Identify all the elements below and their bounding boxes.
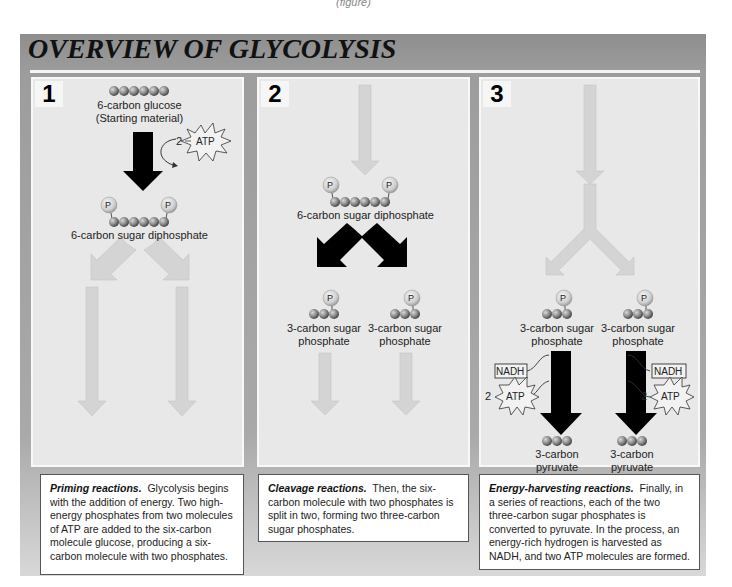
phosphate-label: P	[560, 292, 566, 305]
panel-priming: 1 6-carbon glucose (	[31, 77, 244, 467]
phosphate-label: P	[641, 292, 647, 305]
caption-heading: Priming reactions.	[50, 482, 142, 494]
pyruvate-chain-icon	[542, 436, 572, 446]
light-arrow-icon	[78, 287, 106, 416]
energy-harvesting-diagram	[481, 79, 702, 469]
light-arrow-icon	[546, 184, 634, 275]
atp-count: 2	[641, 390, 647, 403]
panel-energy-harvesting: 3 P P 3	[479, 77, 700, 467]
right-input-label-2: phosphate	[593, 335, 683, 348]
pyruvate-chain-icon	[617, 436, 647, 446]
phosphate-label: P	[386, 179, 392, 192]
caption-energy-harvesting: Energy-harvesting reactions. Finally, in…	[479, 474, 700, 570]
sugar-phosphate-icon	[309, 290, 339, 319]
dark-arrow-icon	[540, 351, 582, 435]
dark-arrow-icon	[361, 223, 407, 267]
right-product-label-2: phosphate	[360, 335, 450, 348]
atp-count: 2	[176, 135, 182, 148]
phosphate-label: P	[327, 179, 333, 192]
light-arrow-icon	[168, 287, 196, 416]
dark-arrow-icon	[123, 132, 163, 191]
atp-label: ATP	[506, 390, 525, 403]
light-arrow-icon	[392, 353, 420, 415]
dark-arrow-icon	[317, 223, 363, 267]
input-label: 6-carbon sugar diphosphate	[259, 209, 472, 222]
left-product-label: 3-carbon sugar	[279, 322, 369, 335]
light-arrow-icon	[311, 353, 339, 415]
caption-heading: Energy-harvesting reactions.	[489, 482, 634, 494]
page-header-fragment: (figure)	[336, 0, 371, 8]
light-arrow-icon	[576, 85, 604, 184]
caption-cleavage: Cleavage reactions. Then, the six-carbon…	[258, 474, 469, 542]
atp-curve-arrow-icon	[161, 139, 176, 165]
right-output-label-2: pyruvate	[592, 461, 672, 474]
left-product-label-2: phosphate	[279, 335, 369, 348]
phosphate-label: P	[165, 199, 171, 212]
sugar-phosphate-icon	[390, 290, 420, 319]
left-output-label: 3-carbon	[517, 448, 597, 461]
atp-label: ATP	[196, 135, 215, 148]
phosphate-label: P	[327, 292, 333, 305]
right-product-label: 3-carbon sugar	[360, 322, 450, 335]
figure-title: OVERVIEW OF GLYCOLYSIS	[28, 33, 396, 65]
glucose-chain-icon	[109, 86, 169, 96]
left-input-label: 3-carbon sugar	[512, 322, 602, 335]
sugar-phosphate-icon	[623, 290, 653, 319]
title-divider	[30, 70, 700, 73]
nadh-label: NADH	[496, 365, 524, 378]
light-arrow-icon	[351, 85, 379, 175]
atp-count: 2	[485, 390, 491, 403]
right-output-label: 3-carbon	[592, 448, 672, 461]
cleavage-diagram	[259, 79, 472, 469]
sugar-phosphate-icon	[542, 290, 572, 319]
light-arrow-icon	[91, 237, 136, 280]
left-output-label-2: pyruvate	[517, 461, 597, 474]
right-input-label: 3-carbon sugar	[593, 322, 683, 335]
left-input-label-2: phosphate	[512, 335, 602, 348]
glucose-label: 6-carbon glucose	[33, 99, 246, 112]
starting-material-label: (Starting material)	[33, 112, 246, 125]
dark-arrow-icon	[615, 351, 657, 435]
light-arrow-icon	[144, 237, 189, 280]
phosphate-label: P	[105, 199, 111, 212]
caption-priming: Priming reactions. Glycolysis begins wit…	[40, 474, 244, 575]
phosphate-label: P	[408, 292, 414, 305]
atp-label: ATP	[661, 390, 680, 403]
nadh-label: NADH	[654, 365, 682, 378]
caption-heading: Cleavage reactions.	[268, 482, 367, 494]
product-label: 6-carbon sugar diphosphate	[33, 229, 246, 242]
panel-cleavage: 2 P P 6-carbon sugar diphosphate P P	[257, 77, 470, 467]
